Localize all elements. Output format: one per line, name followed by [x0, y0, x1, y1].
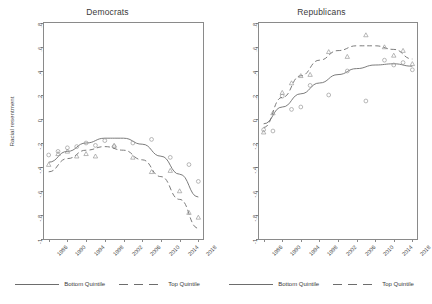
fit-line-top-quintile: [49, 147, 199, 229]
y-axis-tick-label: .8: [252, 23, 258, 28]
data-point-marker: [196, 215, 200, 219]
y-axis-tick-label: .4: [252, 71, 258, 76]
legend-swatch-dashed-icon: [333, 284, 377, 285]
legend-swatch-solid-icon: [15, 284, 59, 285]
x-axis-tick-label: 2002: [345, 244, 358, 257]
x-axis-tick: [412, 239, 413, 242]
legend-item-top-quintile: Top Quintile: [119, 281, 200, 287]
panel-title-democrats: Democrats: [0, 7, 215, 17]
legend-item-bottom-quintile: Bottom Quintile: [229, 281, 319, 287]
x-axis-tick: [49, 239, 50, 242]
x-axis-tick-label: 2002: [130, 244, 143, 257]
data-point-marker: [299, 105, 303, 109]
data-point-marker: [327, 93, 331, 97]
data-point-marker: [84, 152, 88, 156]
x-axis-tick-label: 2010: [382, 244, 395, 257]
panel-republicans: Republicans .8.6.4.20-.2-.4-.6-.8-119861…: [214, 0, 429, 272]
y-axis-tick-label: 0: [37, 119, 43, 122]
y-axis-tick-label: .6: [252, 47, 258, 52]
panel-title-republicans: Republicans: [214, 7, 429, 17]
y-axis-tick-label: -.2: [37, 143, 43, 150]
panel-democrats: Democrats Racial resentment .8.6.4.20-.2…: [0, 0, 215, 272]
data-point-marker: [131, 155, 135, 159]
data-point-marker: [392, 53, 396, 57]
y-axis-tick-label: -1: [37, 239, 43, 244]
x-axis-tick: [86, 239, 87, 242]
data-point-marker: [364, 99, 368, 103]
data-point-marker: [308, 72, 312, 76]
data-point-marker: [46, 162, 50, 166]
plot-area-republicans: .8.6.4.20-.2-.4-.6-.8-119861990199419982…: [258, 22, 418, 240]
fit-line-bottom-quintile: [49, 138, 199, 197]
plot-canvas-democrats: [44, 23, 203, 239]
data-point-marker: [168, 168, 172, 172]
data-point-marker: [289, 81, 293, 85]
y-axis-tick-label: -1: [252, 239, 258, 244]
data-point-marker: [280, 90, 284, 94]
y-axis-tick-label: 0: [252, 119, 258, 122]
data-point-marker: [401, 48, 405, 52]
x-axis-tick: [161, 239, 162, 242]
x-axis-tick-label: 1986: [270, 244, 283, 257]
legend-item-top-quintile: Top Quintile: [333, 281, 414, 287]
data-point-marker: [382, 45, 386, 49]
x-axis-tick: [394, 239, 395, 242]
x-axis-tick: [375, 239, 376, 242]
plot-canvas-republicans: [259, 23, 417, 239]
x-axis-tick-label: 1998: [326, 244, 339, 257]
data-point-marker: [187, 163, 191, 167]
x-axis-tick-label: 2006: [363, 244, 376, 257]
plot-area-democrats: .8.6.4.20-.2-.4-.6-.8-119861990199419982…: [43, 22, 204, 240]
x-axis-tick-label: 2006: [149, 244, 162, 257]
legend-label-bottom-quintile: Bottom Quintile: [64, 281, 105, 287]
legend-label-bottom-quintile: Bottom Quintile: [278, 281, 319, 287]
data-point-marker: [327, 50, 331, 54]
data-point-marker: [290, 108, 294, 112]
fit-line-bottom-quintile: [264, 64, 413, 124]
legend-swatch-solid-icon: [229, 284, 273, 285]
fit-line-top-quintile: [264, 46, 413, 128]
data-point-marker: [94, 144, 98, 148]
x-axis-tick: [124, 239, 125, 242]
y-axis-tick-label: -.4: [252, 167, 258, 174]
x-axis-tick-label: 2018: [419, 244, 432, 257]
data-point-marker: [410, 62, 414, 66]
x-axis-tick: [338, 239, 339, 242]
x-axis-tick: [319, 239, 320, 242]
y-axis-tick-label: -.6: [252, 191, 258, 198]
data-point-marker: [308, 84, 312, 88]
data-point-marker: [364, 33, 368, 37]
x-axis-tick-label: 2014: [186, 244, 199, 257]
x-axis-tick: [264, 239, 265, 242]
data-point-marker: [401, 61, 405, 65]
x-axis-tick: [282, 239, 283, 242]
y-axis-tick-label: .2: [252, 95, 258, 100]
y-axis-tick-label: .2: [37, 95, 43, 100]
data-point-marker: [410, 68, 414, 72]
legend-republicans: Bottom Quintile Top Quintile: [214, 274, 429, 294]
y-axis-tick-label: -.8: [37, 215, 43, 222]
y-axis-tick-label: .6: [37, 47, 43, 52]
x-axis-tick: [105, 239, 106, 242]
x-axis-tick-label: 1986: [55, 244, 68, 257]
y-axis-tick-label: -.4: [37, 167, 43, 174]
data-point-marker: [93, 154, 97, 158]
data-point-marker: [168, 156, 172, 160]
x-axis-tick-label: 1990: [74, 244, 87, 257]
y-axis-tick-label: -.6: [37, 191, 43, 198]
y-axis-title: Racial resentment: [8, 67, 15, 177]
x-axis-tick-label: 2014: [400, 244, 413, 257]
y-axis-tick-label: -.2: [252, 143, 258, 150]
y-axis-tick-label: .4: [37, 71, 43, 76]
legend-swatch-dashed-icon: [119, 284, 163, 285]
legend-label-top-quintile: Top Quintile: [382, 281, 414, 287]
x-axis-tick: [142, 239, 143, 242]
data-point-marker: [150, 138, 154, 142]
x-axis-tick: [67, 239, 68, 242]
data-point-marker: [196, 180, 200, 184]
x-axis-tick-label: 2010: [168, 244, 181, 257]
x-axis-tick: [180, 239, 181, 242]
x-axis-tick-label: 1994: [307, 244, 320, 257]
x-axis-tick: [198, 239, 199, 242]
legend-democrats: Bottom Quintile Top Quintile: [0, 274, 215, 294]
